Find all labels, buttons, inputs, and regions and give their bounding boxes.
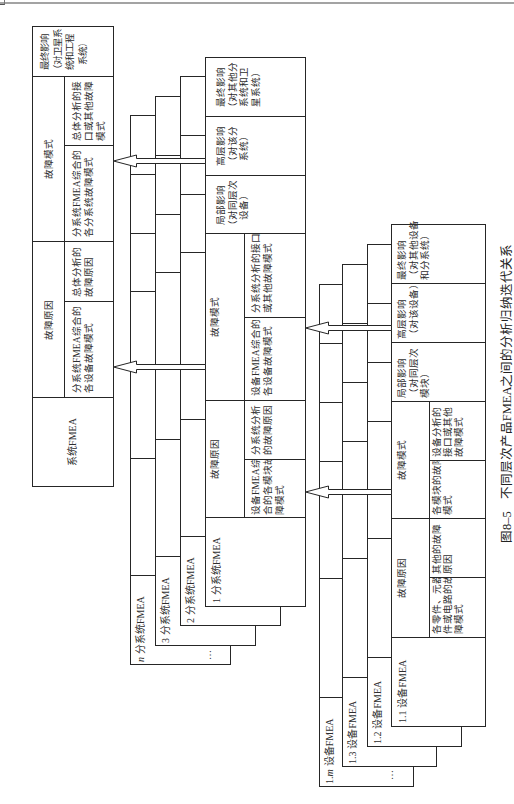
- local-effect-cell: 局部影响 （对同层次 模块）: [391, 342, 486, 402]
- table-label: 1.m设备FMEA: [320, 716, 336, 786]
- failure-mode-header: 故障模式: [391, 401, 430, 519]
- figure-page: n分系统FMEA … 3分系统FMEA 2分系统FMEA 1分系统FMEA 故障…: [0, 0, 514, 804]
- final-effect-cell: 最终影响 （对卫星系 统和工程 系统）: [32, 26, 114, 77]
- failure-mode-header: 故障模式: [205, 233, 245, 401]
- failure-cause-header: 故障原因: [32, 241, 65, 398]
- table-label: 1.2设备FMEA: [368, 679, 384, 746]
- failure-cause-cell: 分系统分析 的故障原因: [244, 400, 306, 460]
- subsystem-fmea-table-1: 1分系统FMEA 故障原因 设备FMEA综 合的各模块故 障模式 分系统分析 的…: [205, 57, 306, 607]
- failure-mode-header: 故障模式: [32, 76, 65, 242]
- failure-mode-cell: 总体分析的接 口或其他故障 模式: [64, 76, 114, 146]
- failure-cause-cell: 其他的故障 原因: [429, 518, 486, 578]
- more-tables-ellipsis: …: [384, 770, 396, 780]
- table-label: 1.3设备FMEA: [343, 699, 359, 766]
- failure-cause-cell: 分系统FMEA综合的 各设备故障模式: [64, 301, 114, 398]
- higher-effect-cell: 高层影响 （对该设备）: [391, 283, 486, 343]
- page-edge-rule: [0, 3, 514, 5]
- table-label: 2分系统FMEA: [181, 555, 197, 625]
- failure-mode-cell: 设备分析的 接口或其他 故障模式: [429, 401, 486, 461]
- system-fmea-table: 系统FMEA 故障原因 分系统FMEA综合的 各设备故障模式 总体分析的 故障原…: [32, 26, 114, 487]
- figure-number: 图8–5: [500, 511, 514, 543]
- equipment-fmea-table-1-1: 1.1设备FMEA 故障原因 各零件、元器 件或电路的故 障模式 其他的故障 原…: [391, 224, 486, 727]
- failure-cause-header: 故障原因: [391, 518, 430, 638]
- table-label: n分系统FMEA: [131, 594, 147, 664]
- failure-cause-header: 故障原因: [205, 400, 245, 518]
- figure-title: 不同层次产品FMEA之间的分析归纳迭代关系: [500, 244, 514, 500]
- figure-caption: 图8–5不同层次产品FMEA之间的分析归纳迭代关系: [500, 244, 514, 543]
- table-label: 1.1设备FMEA: [391, 637, 486, 727]
- more-tables-ellipsis: …: [202, 650, 214, 660]
- page-corner-mark: [0, 0, 5, 5]
- failure-mode-cell: 各模块的故障 模式: [429, 460, 486, 519]
- final-effect-cell: 最终影响 （对其他分 系统和卫 星系统）: [205, 57, 306, 117]
- table-label: 3分系统FMEA: [156, 575, 172, 645]
- failure-cause-cell: 各零件、元器 件或电路的故 障模式: [429, 577, 486, 638]
- final-effect-cell: 最终影响 （对其他设备 和分系统）: [391, 224, 486, 284]
- higher-effect-cell: 高层影响 （对该分 系统）: [205, 116, 306, 176]
- local-effect-cell: 局部影响 （对同层次 设备）: [205, 175, 306, 234]
- failure-mode-cell: 分系统FMEA综合的 各分系统故障模式: [64, 145, 114, 242]
- failure-cause-cell: 设备FMEA综 合的各模块故 障模式: [244, 459, 306, 518]
- failure-mode-cell: 设备FMEA综合的 各设备故障模式: [244, 317, 306, 401]
- failure-cause-cell: 总体分析的 故障原因: [64, 241, 114, 302]
- failure-mode-cell: 分系统分析的接口 或其他故障模式: [244, 233, 306, 318]
- table-label: 1分系统FMEA: [205, 517, 306, 607]
- system-fmea-name-cell: 系统FMEA: [32, 397, 114, 487]
